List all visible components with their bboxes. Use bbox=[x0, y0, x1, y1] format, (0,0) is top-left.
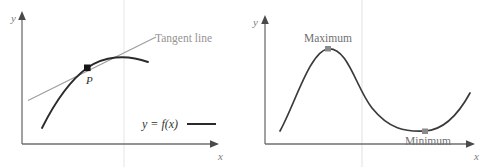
figure-pair: y x Tangent line P y = f(x) y bbox=[0, 0, 485, 167]
minimum-marker bbox=[422, 129, 428, 135]
legend-label-y-equals-fx: y = f(x) bbox=[141, 117, 178, 131]
x-axis-label: x bbox=[217, 150, 223, 162]
point-p-marker bbox=[84, 65, 91, 72]
x-axis-label: x bbox=[473, 150, 479, 162]
x-axis-arrow-icon bbox=[210, 140, 219, 148]
tangent-line-figure: y x Tangent line P y = f(x) bbox=[0, 0, 243, 167]
y-axis-label: y bbox=[252, 16, 258, 28]
maximum-label: Maximum bbox=[304, 32, 352, 44]
minimum-label: Minimum bbox=[405, 135, 451, 147]
y-axis-label: y bbox=[10, 12, 16, 24]
x-axis-arrow-icon bbox=[466, 140, 475, 148]
y-axis-arrow-icon bbox=[261, 15, 269, 24]
tangent-line-label: Tangent line bbox=[155, 32, 212, 45]
maximum-minimum-figure: y x Maximum Minimum bbox=[243, 0, 485, 167]
y-axis-arrow-icon bbox=[18, 11, 26, 20]
maximum-marker bbox=[325, 46, 331, 52]
point-p-label: P bbox=[85, 74, 93, 86]
tangent-line bbox=[28, 37, 156, 101]
function-curve bbox=[280, 49, 470, 131]
